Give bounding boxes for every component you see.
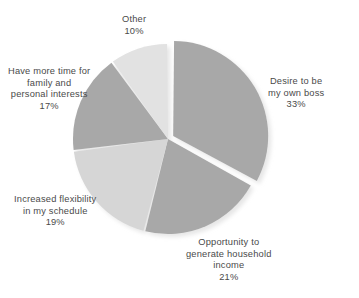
slice-label-line: Have more time for: [8, 66, 90, 78]
slice-label-line: in my schedule: [14, 206, 96, 218]
slice-label-percent: 33%: [268, 99, 324, 111]
slice-label-line: personal interests: [8, 89, 90, 101]
slice-label-increased-flexibility-in-my-schedule: Increased flexibility in my schedule 19%: [14, 194, 96, 229]
slice-label-line: my own boss: [268, 88, 324, 100]
slice-label-line: income: [186, 260, 272, 272]
slice-label-have-more-time-for-family-and-personal-interests: Have more time for family and personal i…: [8, 66, 90, 112]
slice-label-line: generate household: [186, 249, 272, 261]
slice-label-line: Other: [122, 14, 146, 26]
pie-chart: Desire to be my own boss 33% Opportunity…: [0, 0, 359, 298]
slice-label-percent: 19%: [14, 217, 96, 229]
slice-label-percent: 17%: [8, 101, 90, 113]
slice-label-percent: 10%: [122, 26, 146, 38]
pie-chart-canvas: [0, 0, 359, 298]
slice-label-other: Other 10%: [122, 14, 146, 37]
slice-label-desire-to-be-my-own-boss: Desire to be my own boss 33%: [268, 76, 324, 111]
slice-label-line: Increased flexibility: [14, 194, 96, 206]
slice-label-percent: 21%: [186, 272, 272, 284]
slice-label-opportunity-to-generate-household-income: Opportunity to generate household income…: [186, 237, 272, 283]
slice-label-line: Desire to be: [268, 76, 324, 88]
pie-slices: [73, 41, 268, 234]
slice-label-line: family and: [8, 78, 90, 90]
slice-label-line: Opportunity to: [186, 237, 272, 249]
